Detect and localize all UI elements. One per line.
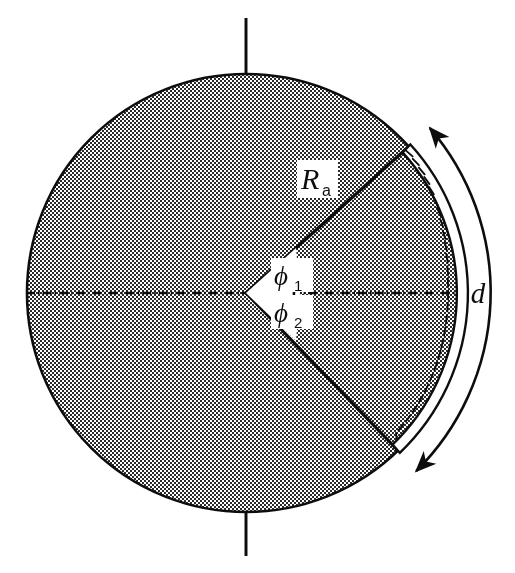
angle-lower-label: ϕ	[274, 298, 288, 328]
figure-canvas: R a ϕ 1 ϕ 2 d	[0, 0, 515, 573]
angle-lower-subscript: 2	[294, 314, 302, 331]
angle-upper-label: ϕ	[274, 261, 288, 291]
sector-diagram-svg: R a ϕ 1 ϕ 2 d	[0, 0, 515, 573]
radius-label-subscript: a	[322, 182, 331, 199]
angle-upper-subscript: 1	[294, 277, 302, 294]
radius-label: R	[300, 162, 319, 195]
arc-dimension-label: d	[471, 277, 486, 309]
radius-label-group: R a	[297, 160, 338, 199]
angle-lower-label-group: ϕ 2	[271, 295, 313, 331]
angle-upper-label-group: ϕ 1	[271, 258, 313, 294]
